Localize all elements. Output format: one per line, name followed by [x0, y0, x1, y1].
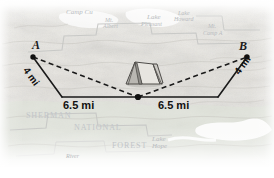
map-diagram: Camp CuMt.AlbertLakePleasantLakeHowardMt… [0, 0, 274, 178]
left-base-distance-label: 6.5 mi [63, 99, 94, 111]
tent-icon [122, 58, 166, 88]
point-a-dot [30, 54, 35, 59]
point-a-label: A [32, 38, 40, 53]
right-base-distance-label: 6.5 mi [158, 99, 189, 111]
point-b-label: B [239, 39, 247, 54]
point-vertex-dot [135, 94, 141, 100]
triangle-geometry-overlay [0, 0, 274, 178]
